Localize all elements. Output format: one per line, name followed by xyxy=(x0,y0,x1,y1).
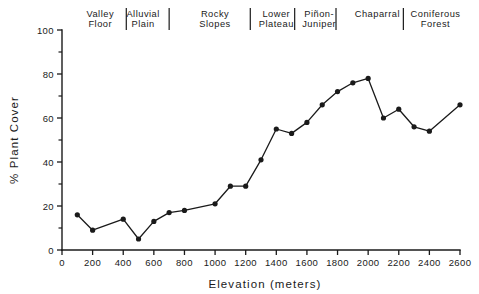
plant-cover-data-points xyxy=(75,76,463,242)
zone-label: Piñon- xyxy=(304,9,334,19)
x-axis-tick-label: 1800 xyxy=(326,257,349,268)
data-point xyxy=(381,115,386,120)
y-axis-tick-label: 0 xyxy=(48,245,54,256)
data-point xyxy=(75,212,80,217)
chart-canvas: ValleyFloorAlluvialPlainRockySlopesLower… xyxy=(0,0,479,294)
x-axis-tick-label: 800 xyxy=(176,257,193,268)
data-point xyxy=(243,184,248,189)
data-point xyxy=(396,107,401,112)
x-axis-tick-label: 1400 xyxy=(265,257,288,268)
plant-cover-elevation-chart: ValleyFloorAlluvialPlainRockySlopesLower… xyxy=(0,0,479,294)
x-axis-tick-label: 2000 xyxy=(357,257,380,268)
y-axis-tick-label: 100 xyxy=(37,25,54,36)
data-point xyxy=(320,102,325,107)
data-point xyxy=(90,228,95,233)
data-point xyxy=(366,76,371,81)
y-axis-tick-label: 20 xyxy=(43,201,54,212)
data-point xyxy=(411,124,416,129)
x-axis-tick-group xyxy=(62,250,460,255)
data-point xyxy=(182,208,187,213)
x-axis-tick-label: 1000 xyxy=(204,257,227,268)
x-axis-tick-label: 200 xyxy=(84,257,101,268)
y-axis-tick-group xyxy=(57,30,62,250)
data-point xyxy=(212,201,217,206)
data-point xyxy=(258,157,263,162)
data-point xyxy=(457,102,462,107)
data-point xyxy=(228,184,233,189)
data-point xyxy=(289,131,294,136)
zone-label: Chaparral xyxy=(355,9,400,19)
data-point xyxy=(427,129,432,134)
data-point xyxy=(335,89,340,94)
data-point xyxy=(136,236,141,241)
zone-label: Alluvial xyxy=(126,9,159,19)
zone-label-group: ValleyFloorAlluvialPlainRockySlopesLower… xyxy=(86,9,460,29)
data-point xyxy=(350,80,355,85)
data-point xyxy=(274,126,279,131)
data-point xyxy=(167,210,172,215)
zone-label: Valley xyxy=(86,9,114,19)
zone-label: Plain xyxy=(132,19,155,29)
x-axis-tick-label: 1200 xyxy=(234,257,257,268)
x-axis-tick-label: 1600 xyxy=(296,257,319,268)
x-axis-tick-label: 2600 xyxy=(449,257,472,268)
y-axis-title: % Plant Cover xyxy=(8,96,20,184)
x-axis-tick-label: 600 xyxy=(145,257,162,268)
y-axis-tick-label: 40 xyxy=(43,157,54,168)
x-axis-tick-label: 2200 xyxy=(387,257,410,268)
data-point xyxy=(304,120,309,125)
x-axis-tick-label: 0 xyxy=(59,257,65,268)
zone-label: Slopes xyxy=(199,19,230,29)
y-axis-tick-label: 80 xyxy=(43,69,54,80)
zone-label: Coniferous xyxy=(411,9,461,19)
zone-label: Floor xyxy=(88,19,112,29)
plant-cover-series-line xyxy=(77,78,460,239)
x-axis-tick-label: 400 xyxy=(115,257,132,268)
zone-label: Forest xyxy=(421,19,450,29)
data-point xyxy=(121,217,126,222)
zone-label: Lower xyxy=(262,9,290,19)
y-axis-tick-label: 60 xyxy=(43,113,54,124)
y-axis-tick-label-group: 020406080100 xyxy=(37,25,54,256)
zone-label: Juniper xyxy=(302,19,336,29)
x-axis-title: Elevation (meters) xyxy=(208,278,321,290)
zone-label: Rocky xyxy=(201,9,229,19)
x-axis-tick-label-group: 0200400600800100012001400160018002000220… xyxy=(59,257,471,268)
data-point xyxy=(151,219,156,224)
zone-label: Plateau xyxy=(259,19,294,29)
x-axis-tick-label: 2400 xyxy=(418,257,441,268)
